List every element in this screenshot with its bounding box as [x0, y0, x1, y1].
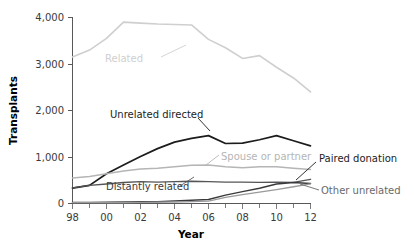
series-label-unrelated-directed: Unrelated directed	[110, 109, 203, 120]
y-tick-label-4000: 4,000	[35, 12, 64, 23]
x-tick-label-98: 98	[66, 212, 79, 223]
series-label-spouse-or-partner: Spouse or partner	[221, 151, 312, 162]
x-tick-label-06: 06	[202, 212, 215, 223]
x-tick-label-02: 02	[134, 212, 147, 223]
series-label-other-unrelated: Other unrelated	[321, 185, 401, 196]
paired-donation-leader-line	[296, 162, 316, 180]
y-tick-label-2000: 2,000	[35, 105, 64, 116]
x-tick-label-08: 08	[236, 212, 249, 223]
series-label-distantly-related: Distantly related	[106, 181, 189, 192]
y-tick-label-3000: 3,000	[35, 59, 64, 70]
series-label-paired-donation: Paired donation	[319, 153, 397, 164]
x-tick-label-12: 12	[304, 212, 317, 223]
x-axis-ticks	[73, 204, 311, 209]
series-path-spouse-or-partner	[73, 165, 311, 178]
x-tick-label-04: 04	[168, 212, 181, 223]
y-tick-label-0: 0	[58, 198, 64, 209]
other-unrelated-leader-line	[300, 184, 319, 190]
spouse-leader-line	[206, 155, 219, 165]
x-tick-label-10: 10	[270, 212, 283, 223]
x-axis-title: Year	[177, 228, 205, 240]
line-chart: Transplants 4,000 3,000 2,000 1,000 0	[0, 0, 414, 250]
related-leader-line	[161, 45, 186, 57]
x-tick-label-00: 00	[100, 212, 113, 223]
y-tick-label-1000: 1,000	[35, 152, 64, 163]
series-label-related: Related	[105, 53, 143, 64]
chart-container: Transplants 4,000 3,000 2,000 1,000 0	[0, 0, 414, 250]
y-axis-title: Transplants	[7, 76, 19, 145]
